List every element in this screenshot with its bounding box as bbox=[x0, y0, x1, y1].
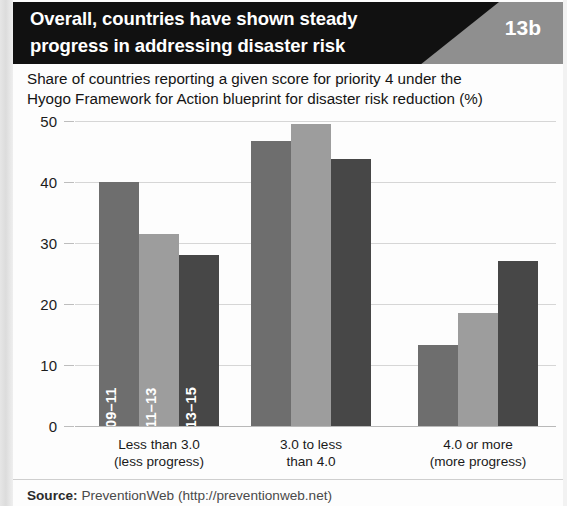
figure-title-line-2: progress in addressing disaster risk bbox=[30, 32, 470, 59]
x-axis-category-label-line: (more progress) bbox=[386, 453, 567, 470]
y-axis-tick bbox=[64, 121, 74, 122]
y-axis-tick bbox=[64, 182, 74, 183]
x-axis-category-label-line: 4.0 or more bbox=[386, 436, 567, 453]
bar bbox=[291, 124, 331, 426]
y-axis-tick-label: 30 bbox=[17, 236, 57, 251]
gridline bbox=[75, 121, 556, 122]
y-axis-tick bbox=[64, 426, 74, 427]
bar bbox=[498, 261, 538, 426]
figure-subtitle-line-2: Hyogo Framework for Action blueprint for… bbox=[27, 89, 557, 109]
bar: 2013–15 bbox=[179, 255, 219, 426]
y-axis-tick-label: 20 bbox=[17, 297, 57, 312]
y-axis-tick bbox=[64, 304, 74, 305]
figure-header: Overall, countries have shown steady pro… bbox=[13, 2, 563, 64]
x-axis-category-label: 3.0 to lessthan 4.0 bbox=[219, 436, 403, 470]
plot-area: 010203040502009–112011–132013–15Less tha… bbox=[75, 121, 556, 426]
x-axis-line bbox=[75, 426, 556, 427]
bar: 2011–13 bbox=[139, 234, 179, 426]
series-label: 2013–15 bbox=[183, 387, 199, 426]
source-text: PreventionWeb (http://preventionweb.net) bbox=[81, 488, 332, 503]
y-axis-tick bbox=[64, 365, 74, 366]
figure-number-badge: 13b bbox=[505, 16, 541, 40]
y-axis-tick bbox=[64, 243, 74, 244]
y-axis-tick-label: 50 bbox=[17, 114, 57, 129]
y-axis-tick-label: 40 bbox=[17, 175, 57, 190]
source-note: Source: PreventionWeb (http://prevention… bbox=[27, 487, 332, 504]
y-axis-tick-label: 10 bbox=[17, 358, 57, 373]
page-left-margin bbox=[0, 0, 13, 506]
bar bbox=[458, 313, 498, 426]
y-axis-tick-label: 0 bbox=[17, 419, 57, 434]
series-label: 2009–11 bbox=[103, 387, 119, 426]
figure-title: Overall, countries have shown steady pro… bbox=[30, 5, 470, 59]
footer-divider bbox=[13, 479, 563, 480]
bar bbox=[331, 159, 371, 426]
x-axis-category-label: 4.0 or more(more progress) bbox=[386, 436, 567, 470]
bar bbox=[251, 141, 291, 426]
figure-subtitle: Share of countries reporting a given sco… bbox=[27, 69, 557, 109]
bar bbox=[418, 345, 458, 426]
figure-subtitle-line-1: Share of countries reporting a given sco… bbox=[27, 69, 557, 89]
page-right-margin bbox=[563, 0, 567, 506]
figure-panel: Overall, countries have shown steady pro… bbox=[0, 0, 567, 506]
bar: 2009–11 bbox=[99, 182, 139, 426]
x-axis-category-label-line: 3.0 to less bbox=[219, 436, 403, 453]
figure-title-line-1: Overall, countries have shown steady bbox=[30, 5, 470, 32]
series-label: 2011–13 bbox=[143, 387, 159, 426]
x-axis-category-label-line: than 4.0 bbox=[219, 453, 403, 470]
bar-chart: 010203040502009–112011–132013–15Less tha… bbox=[13, 110, 563, 475]
source-label: Source: bbox=[27, 488, 78, 503]
